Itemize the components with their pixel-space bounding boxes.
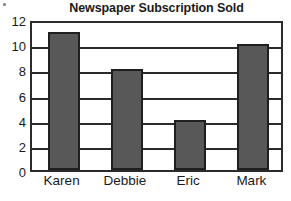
- x-axis-tick-label: Mark: [220, 174, 283, 188]
- y-axis-tick-label: 4: [0, 115, 26, 128]
- chart-title: Newspaper Subscription Sold: [30, 1, 283, 15]
- plot-area: [30, 21, 283, 172]
- y-axis-tick-label: 0: [0, 166, 26, 179]
- bar: [237, 44, 269, 170]
- bar-chart: Newspaper Subscription Sold 024681012 Ka…: [0, 0, 291, 201]
- y-axis-tick-label: 6: [0, 90, 26, 103]
- y-axis-tick-label: 12: [0, 15, 26, 28]
- bar: [174, 120, 206, 170]
- y-axis: 024681012: [0, 21, 26, 172]
- x-axis: KarenDebbieEricMark: [30, 174, 283, 196]
- bars-group: [32, 23, 281, 170]
- x-axis-tick-label: Debbie: [93, 174, 156, 188]
- y-axis-tick-label: 10: [0, 40, 26, 53]
- y-axis-tick-label: 2: [0, 140, 26, 153]
- scan-artifact-speck: [3, 3, 6, 6]
- bar: [48, 32, 80, 170]
- x-axis-tick-label: Eric: [157, 174, 220, 188]
- y-axis-tick-label: 8: [0, 65, 26, 78]
- bar: [111, 69, 143, 170]
- x-axis-tick-label: Karen: [30, 174, 93, 188]
